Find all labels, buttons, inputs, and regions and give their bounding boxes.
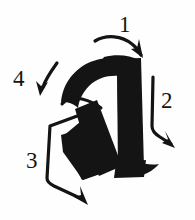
stroke-order-diagram: 1 2 3 4 — [0, 0, 195, 220]
stroke-3-label: 3 — [26, 148, 38, 173]
stroke-2-label: 2 — [161, 88, 173, 113]
stroke-1-label: 1 — [119, 12, 131, 37]
stroke-4-label: 4 — [13, 66, 25, 91]
